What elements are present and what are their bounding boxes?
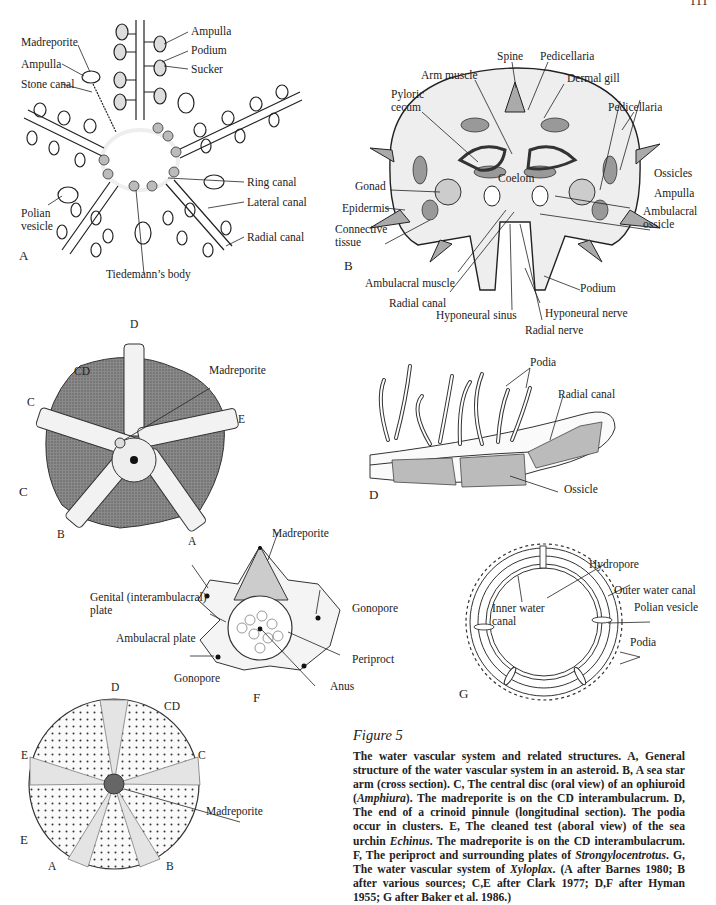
sea-star-arm-cross-section-illustration: [330, 0, 716, 320]
caption-taxon: Strongylocentrotus: [575, 849, 666, 862]
label-sucker: Sucker: [191, 63, 223, 76]
label-ambulacral-plate: Ambulacral plate: [116, 632, 196, 645]
label-epidermis: Epidermis: [342, 202, 389, 215]
caption-taxon: Amphiura: [357, 792, 406, 805]
label-c-e: E: [238, 413, 245, 426]
label-tiedemanns-body: Tiedemann’s body: [106, 268, 191, 281]
label-e-b: B: [166, 860, 174, 873]
caption-taxon: Echinus: [390, 835, 430, 848]
panel-letter-a: A: [19, 248, 28, 264]
label-genital-plate: Genital (interambulacral) plate: [90, 591, 225, 617]
label-e-e: E: [21, 749, 28, 762]
panel-letter-c: C: [19, 484, 28, 500]
caption-taxon: Xyloplax: [510, 863, 553, 876]
label-hydropore: Hydropore: [589, 558, 639, 571]
label-hyponeural-sinus: Hyponeural sinus: [436, 309, 517, 322]
label-ambulacral-ossicle: Ambulacral ossicle: [643, 205, 713, 231]
label-gonopore-right: Gonopore: [352, 602, 398, 615]
label-madreporite: Madreporite: [272, 527, 329, 540]
label-pedicellaria-top: Pedicellaria: [540, 50, 594, 63]
label-connective-tissue: Connective tissue: [335, 223, 405, 249]
label-e-cd: CD: [164, 700, 180, 713]
label-periproct: Periproct: [352, 653, 394, 666]
label-arm-muscle: Arm muscle: [421, 69, 478, 82]
label-coelom: Coelom: [498, 172, 534, 185]
label-c-c: C: [27, 396, 35, 409]
label-pedicellaria-right: Pedicellaria: [608, 101, 662, 114]
label-radial-canal: Radial canal: [247, 231, 304, 244]
label-podium: Podium: [580, 282, 616, 295]
label-polian-vesicle: Polian vesicle: [21, 207, 71, 233]
panel-letter-g: G: [459, 686, 468, 702]
label-c-cd: CD: [74, 365, 90, 378]
label-ambulacral-muscle: Ambulacral muscle: [365, 277, 455, 290]
label-e-d: D: [111, 681, 119, 694]
label-ampulla-right: Ampulla: [191, 25, 231, 38]
label-hyponeural-nerve: Hyponeural nerve: [545, 307, 628, 320]
label-podia: Podia: [630, 636, 656, 649]
label-outer-water-canal: Outer water canal: [614, 584, 696, 597]
panel-letter-b: B: [344, 258, 353, 274]
label-c-madreporite: Madreporite: [209, 364, 266, 377]
label-e-a: A: [48, 860, 56, 873]
label-stone-canal: Stone canal: [21, 78, 74, 91]
label-gonopore-left: Gonopore: [174, 672, 220, 685]
label-e-madreporite: Madreporite: [206, 805, 263, 818]
label-c-d: D: [130, 318, 138, 331]
panel-letter-d: D: [369, 487, 378, 503]
label-ossicles: Ossicles: [654, 167, 692, 180]
label-e-c: C: [198, 749, 206, 762]
label-radial-nerve: Radial nerve: [525, 324, 583, 337]
label-ampulla: Ampulla: [654, 187, 694, 200]
label-ring-canal: Ring canal: [247, 176, 297, 189]
label-spine: Spine: [497, 50, 523, 63]
label-lateral-canal: Lateral canal: [247, 196, 307, 209]
figure-caption: The water vascular system and related st…: [353, 750, 685, 905]
label-polian-vesicle: Polian vesicle: [634, 601, 698, 614]
label-podium: Podium: [191, 44, 227, 57]
label-podia: Podia: [530, 356, 556, 369]
label-dermal-gill: Dermal gill: [567, 72, 620, 85]
label-anus: Anus: [330, 680, 354, 693]
label-radial-canal: Radial canal: [558, 388, 615, 401]
label-ampulla-left: Ampulla: [21, 58, 61, 71]
figure-title: Figure 5: [353, 727, 403, 744]
xyloplax-water-vascular-illustration: [440, 540, 716, 700]
label-c-b: B: [57, 528, 65, 541]
panel-letter-f: F: [253, 690, 260, 706]
label-madreporite: Madreporite: [21, 36, 78, 49]
label-ossicle: Ossicle: [564, 483, 598, 496]
label-pyloric-cecum: Pyloric cecum: [391, 88, 441, 114]
label-inner-water-canal: Inner water canal: [492, 602, 552, 628]
sea-urchin-test-illustration: [28, 695, 208, 875]
panel-letter-e: E: [20, 832, 28, 848]
label-gonad: Gonad: [355, 180, 386, 193]
